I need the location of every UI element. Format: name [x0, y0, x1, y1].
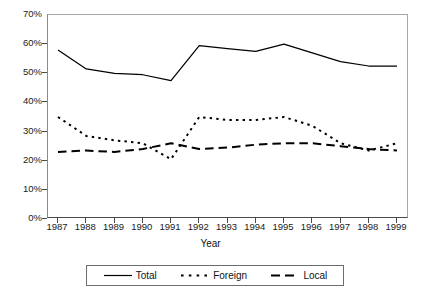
chart-figure: 0%10%20%30%40%50%60%70% 1987198819891990…: [0, 0, 421, 297]
legend-swatch-dashed-icon: [270, 270, 300, 281]
x-tick-mark: [283, 218, 284, 223]
y-tick-label: 60%: [2, 38, 42, 48]
x-tick-label: 1996: [301, 222, 322, 232]
x-tick-mark: [57, 218, 58, 223]
legend-item-foreign: Foreign: [180, 270, 247, 281]
x-axis-title: Year: [0, 238, 421, 249]
chart-legend: Total Foreign Local: [86, 265, 344, 286]
x-tick-label: 1998: [357, 222, 378, 232]
legend-label-local: Local: [303, 271, 327, 281]
x-tick-mark: [114, 218, 115, 223]
x-tick-label: 1991: [159, 222, 180, 232]
x-tick-mark: [311, 218, 312, 223]
x-tick-mark: [85, 218, 86, 223]
chart-plot-lines: [48, 15, 409, 219]
x-tick-mark: [142, 218, 143, 223]
x-tick-label: 1994: [244, 222, 265, 232]
y-tick-label: 20%: [2, 155, 42, 165]
series-line-total: [58, 44, 397, 80]
x-tick-label: 1989: [103, 222, 124, 232]
x-tick-label: 1993: [216, 222, 237, 232]
legend-label-foreign: Foreign: [213, 271, 247, 281]
series-line-local: [58, 143, 397, 152]
x-tick-mark: [396, 218, 397, 223]
legend-label-total: Total: [136, 271, 157, 281]
x-tick-mark: [368, 218, 369, 223]
x-tick-label: 1997: [329, 222, 350, 232]
x-tick-mark: [227, 218, 228, 223]
x-tick-label: 1988: [75, 222, 96, 232]
x-axis: 1987198819891990199119921993199419951996…: [47, 222, 408, 238]
y-tick-label: 10%: [2, 184, 42, 194]
x-tick-mark: [255, 218, 256, 223]
x-tick-mark: [170, 218, 171, 223]
plot-area: [47, 14, 408, 218]
y-tick-label: 0%: [2, 213, 42, 223]
x-tick-mark: [340, 218, 341, 223]
legend-swatch-dotted-icon: [180, 270, 210, 281]
legend-item-local: Local: [270, 270, 327, 281]
x-tick-mark: [198, 218, 199, 223]
y-tick-mark: [42, 218, 47, 219]
x-tick-label: 1995: [272, 222, 293, 232]
y-tick-label: 70%: [2, 9, 42, 19]
y-tick-label: 50%: [2, 68, 42, 78]
x-tick-label: 1987: [46, 222, 67, 232]
y-tick-label: 30%: [2, 126, 42, 136]
y-axis: 0%10%20%30%40%50%60%70%: [0, 14, 42, 218]
y-tick-label: 40%: [2, 97, 42, 107]
legend-swatch-solid-icon: [103, 270, 133, 281]
x-tick-label: 1992: [188, 222, 209, 232]
x-tick-label: 1999: [385, 222, 406, 232]
x-tick-label: 1990: [131, 222, 152, 232]
series-line-foreign: [58, 117, 397, 159]
legend-item-total: Total: [103, 270, 157, 281]
